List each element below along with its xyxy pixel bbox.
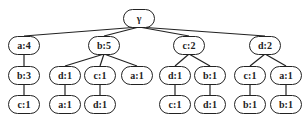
tree-edge [250,54,265,66]
tree-node: a:1 [270,66,302,85]
tree-edge [189,54,210,66]
tree-edge [265,54,286,66]
tree-node: c:2 [173,36,205,55]
tree-node: c:1 [234,66,266,85]
tree-node: d:1 [159,66,191,85]
tree-node: b:5 [88,36,120,55]
tree-root-node: γ [123,9,155,28]
tree-node: b:1 [234,95,266,114]
tree-edge [139,27,265,36]
tree-node: b:1 [194,66,226,85]
tree-node: c:1 [8,95,40,114]
tree-node: c:1 [159,95,191,114]
tree-node: d:1 [84,95,116,114]
tree-node: d:2 [249,36,281,55]
tree-edge [175,54,189,66]
tree-node: b:1 [270,95,302,114]
tree-edge [104,54,137,66]
tree-edge [100,54,104,66]
tree-node: a:1 [121,66,153,85]
tree-node: a:1 [49,95,81,114]
tree-node: b:3 [8,66,40,85]
tree-node: c:1 [84,66,116,85]
tree-edge [65,54,104,66]
tree-node: d:1 [49,66,81,85]
tree-node: d:1 [194,95,226,114]
tree-node: a:4 [8,36,40,55]
